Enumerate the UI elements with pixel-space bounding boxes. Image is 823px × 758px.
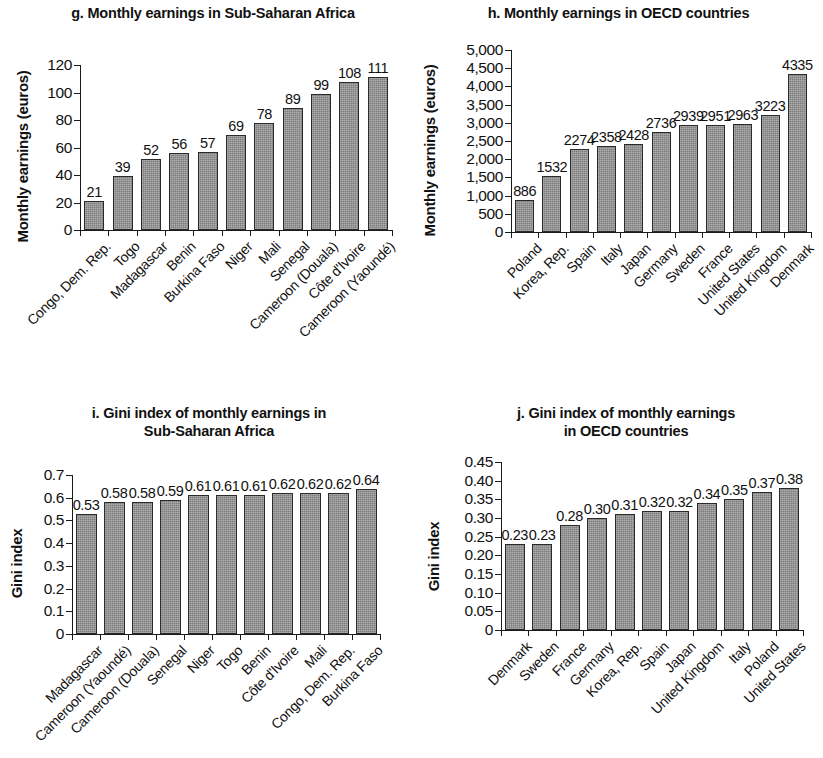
- x-tick-mark-h-0: [538, 232, 539, 238]
- bar-h-10: [788, 74, 807, 232]
- x-axis-line-g: [80, 230, 392, 231]
- y-tick-label-i-0: 0: [12, 626, 64, 642]
- chart-panel-h: h. Monthly earnings in OECD countries Mo…: [411, 0, 823, 380]
- x-tick-mark-g-4: [222, 230, 223, 236]
- x-tick-mark-j-10: [803, 630, 804, 636]
- x-tick-mark-g-1: [137, 230, 138, 236]
- bar-j-9: [752, 492, 772, 630]
- bar-j-2: [560, 525, 580, 630]
- y-tick-label-g-4: 80: [20, 112, 72, 128]
- y-tick-label-i-4: 0.4: [12, 535, 64, 551]
- y-tick-mark-g-3: [74, 148, 80, 149]
- y-tick-label-j-8: 0.40: [441, 473, 493, 489]
- x-tick-mark-g-6: [279, 230, 280, 236]
- bar-i-9: [328, 493, 349, 634]
- y-tick-mark-j-4: [495, 555, 501, 556]
- bar-h-6: [679, 125, 698, 232]
- x-tick-mark-j-3: [611, 630, 612, 636]
- x-tick-mark-i-9: [352, 634, 353, 640]
- bar-g-2: [141, 159, 161, 231]
- bar-j-8: [724, 499, 744, 630]
- x-tick-mark-g-0: [108, 230, 109, 236]
- y-tick-label-j-7: 0.35: [441, 491, 493, 507]
- x-tick-mark-i-origin: [72, 634, 73, 640]
- x-tick-mark-g-2: [165, 230, 166, 236]
- y-axis-line-g: [80, 65, 81, 230]
- y-tick-label-g-6: 120: [20, 57, 72, 73]
- x-tick-mark-j-2: [583, 630, 584, 636]
- bar-g-6: [254, 123, 274, 230]
- bar-i-3: [160, 500, 181, 634]
- bar-j-0: [505, 544, 525, 630]
- y-tick-mark-i-1: [66, 611, 72, 612]
- x-tick-mark-h-5: [675, 232, 676, 238]
- bar-h-9: [761, 115, 780, 232]
- y-tick-label-g-0: 0: [20, 222, 72, 238]
- y-tick-label-i-2: 0.2: [12, 581, 64, 597]
- bar-g-10: [368, 77, 388, 230]
- y-tick-label-h-4: 2,000: [451, 151, 503, 167]
- bar-i-8: [300, 493, 321, 634]
- bar-j-5: [642, 511, 662, 630]
- y-tick-mark-g-6: [74, 65, 80, 66]
- x-tick-mark-i-7: [296, 634, 297, 640]
- y-tick-mark-g-4: [74, 120, 80, 121]
- y-tick-mark-g-5: [74, 93, 80, 94]
- bar-value-label-j-10: 0.38: [763, 472, 815, 487]
- x-tick-mark-j-6: [693, 630, 694, 636]
- x-tick-mark-g-7: [307, 230, 308, 236]
- y-tick-mark-h-7: [505, 105, 511, 106]
- y-tick-mark-h-4: [505, 159, 511, 160]
- bar-j-6: [669, 511, 689, 630]
- y-tick-label-h-6: 3,000: [451, 115, 503, 131]
- x-tick-mark-g-8: [335, 230, 336, 236]
- x-tick-mark-h-10: [811, 232, 812, 238]
- x-tick-mark-i-1: [128, 634, 129, 640]
- y-tick-label-g-2: 40: [20, 167, 72, 183]
- y-tick-label-j-1: 0.05: [441, 603, 493, 619]
- x-tick-mark-g-5: [250, 230, 251, 236]
- y-tick-mark-h-9: [505, 68, 511, 69]
- y-tick-label-j-3: 0.15: [441, 566, 493, 582]
- bar-h-0: [515, 200, 534, 232]
- y-tick-label-j-0: 0: [441, 622, 493, 638]
- bar-j-4: [615, 514, 635, 630]
- bar-g-7: [283, 108, 303, 230]
- y-tick-label-h-1: 500: [451, 206, 503, 222]
- bar-h-8: [733, 124, 752, 232]
- y-tick-mark-j-1: [495, 611, 501, 612]
- y-tick-mark-j-9: [495, 462, 501, 463]
- bar-i-1: [104, 502, 125, 634]
- bar-h-2: [570, 149, 589, 232]
- bar-value-label-h-10: 4335: [771, 58, 823, 73]
- y-axis-label-h: Monthly earnings (euros): [421, 51, 438, 251]
- x-tick-mark-h-9: [784, 232, 785, 238]
- y-tick-label-h-7: 3,500: [451, 97, 503, 113]
- x-tick-mark-i-4: [212, 634, 213, 640]
- x-tick-mark-i-8: [324, 634, 325, 640]
- plot-area-i: Gini index00.10.20.30.40.50.60.70.53Mada…: [0, 400, 412, 758]
- y-tick-label-j-4: 0.20: [441, 547, 493, 563]
- y-tick-mark-h-3: [505, 177, 511, 178]
- y-tick-mark-j-2: [495, 593, 501, 594]
- bar-j-1: [532, 544, 552, 630]
- x-tick-mark-j-5: [666, 630, 667, 636]
- bar-h-3: [597, 146, 616, 232]
- y-tick-label-i-5: 0.5: [12, 512, 64, 528]
- bar-g-9: [339, 82, 359, 231]
- y-tick-label-h-2: 1,000: [451, 188, 503, 204]
- bar-j-7: [697, 503, 717, 630]
- bar-value-label-i-10: 0.64: [340, 473, 392, 488]
- y-tick-label-g-3: 60: [20, 140, 72, 156]
- bar-g-0: [84, 201, 104, 230]
- y-tick-mark-h-6: [505, 123, 511, 124]
- x-tick-mark-i-5: [240, 634, 241, 640]
- y-tick-mark-h-8: [505, 86, 511, 87]
- y-tick-mark-i-4: [66, 543, 72, 544]
- bar-i-5: [216, 495, 237, 634]
- y-tick-label-g-5: 100: [20, 85, 72, 101]
- x-tick-mark-h-6: [702, 232, 703, 238]
- y-tick-label-i-7: 0.7: [12, 467, 64, 483]
- bar-i-0: [76, 514, 97, 634]
- bar-h-1: [542, 176, 561, 232]
